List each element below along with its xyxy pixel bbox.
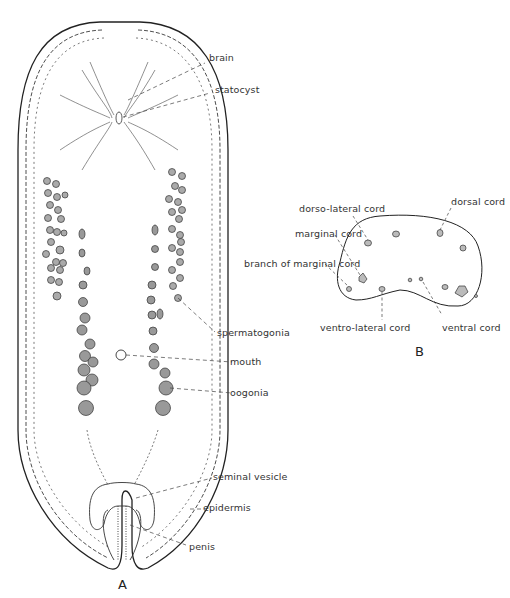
label-dorsal-cord: dorsal cord — [451, 196, 505, 207]
label-ventro-lateral-cord: ventro-lateral cord — [320, 322, 410, 333]
label-statocyst: statocyst — [215, 84, 259, 95]
label-penis: penis — [189, 541, 215, 552]
figure-a-label: A — [118, 577, 127, 592]
oogonia-cells — [77, 225, 173, 416]
label-epidermis: epidermis — [203, 502, 251, 513]
label-branch-of-marginal-cord: branch of marginal cord — [244, 258, 360, 269]
figure-a-body — [18, 22, 228, 569]
label-brain: brain — [209, 52, 234, 63]
spermatogonia-cells — [43, 169, 186, 302]
label-ventral-cord: ventral cord — [442, 322, 501, 333]
mouth-icon — [116, 350, 126, 360]
label-marginal-cord: marginal cord — [295, 228, 362, 239]
statocyst-icon — [116, 112, 122, 124]
label-spermatogonia: spermatogonia — [217, 327, 290, 338]
figure-b-label: B — [415, 344, 424, 359]
label-seminal-vesicle: seminal vesicle — [213, 471, 287, 482]
label-dorso-lateral-cord: dorso-lateral cord — [299, 203, 385, 214]
label-oogonia: oogonia — [230, 387, 269, 398]
label-mouth: mouth — [230, 356, 261, 367]
brain-icon — [60, 62, 178, 170]
